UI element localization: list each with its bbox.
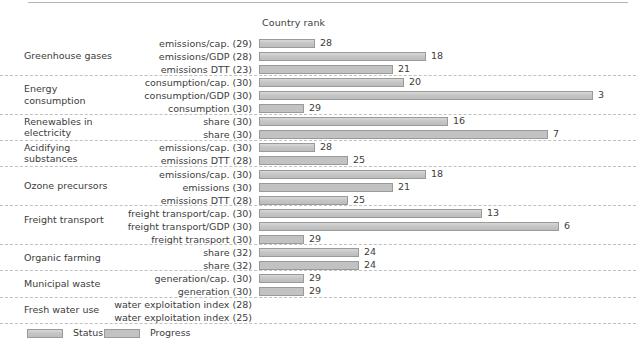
progress-chevrons [260, 66, 392, 73]
legend-swatch-progress [104, 329, 140, 338]
progress-chevrons [260, 262, 358, 269]
status-bar [259, 222, 559, 231]
status-bar [259, 170, 426, 179]
bar-value-label: 13 [487, 207, 499, 220]
bar-area [259, 130, 548, 139]
bar-area [259, 170, 426, 179]
legend-label-status: Status [73, 326, 103, 340]
progress-bar [259, 287, 304, 296]
bar-area [259, 222, 559, 231]
bar-value-label: 3 [598, 89, 604, 102]
chart-row: emissions/cap. (29)28 [0, 37, 636, 50]
status-bar [259, 248, 359, 257]
bar-area [259, 274, 304, 283]
chart-row: freight transport/GDP (30)6 [0, 220, 636, 233]
status-bar [259, 39, 315, 48]
legend-label-progress: Progress [150, 326, 191, 340]
row-label: emissions/cap. (30) [60, 141, 252, 154]
row-label: freight transport/GDP (30) [60, 220, 252, 233]
chart-row: consumption/GDP (30)3 [0, 89, 636, 102]
row-label: emissions/cap. (30) [60, 168, 252, 181]
progress-bar [259, 65, 393, 74]
bar-value-label: 24 [364, 246, 376, 259]
group-separator [0, 323, 636, 324]
bar-area [259, 91, 593, 100]
chart-row: emissions/cap. (30)28 [0, 141, 636, 154]
row-label: consumption/cap. (30) [60, 76, 252, 89]
bar-area [259, 261, 359, 270]
row-label: emissions/cap. (29) [60, 37, 252, 50]
row-label: consumption/GDP (30) [60, 89, 252, 102]
row-label: share (32) [60, 246, 252, 259]
status-bar [259, 91, 593, 100]
bar-area [259, 65, 393, 74]
progress-bar [259, 104, 304, 113]
chart-row: share (32)24 [0, 246, 636, 259]
bar-area [259, 104, 304, 113]
bar-area [259, 235, 304, 244]
bar-value-label: 16 [453, 115, 465, 128]
status-bar [259, 274, 304, 283]
bar-area [259, 78, 404, 87]
chart-row: emissions/GDP (28)18 [0, 50, 636, 63]
progress-bar [259, 156, 348, 165]
progress-chevrons [260, 105, 303, 112]
row-label: freight transport/cap. (30) [60, 207, 252, 220]
column-header-country-rank: Country rank [262, 17, 325, 28]
bar-value-label: 28 [320, 141, 332, 154]
bar-value-label: 18 [431, 50, 443, 63]
bar-value-label: 28 [320, 37, 332, 50]
country-rank-chart: Country rank Greenhouse gasesemissions/c… [0, 0, 636, 346]
progress-chevrons [260, 288, 303, 295]
progress-chevrons [260, 236, 303, 243]
bar-value-label: 29 [309, 272, 321, 285]
legend-swatch-status [27, 329, 63, 338]
chart-row: consumption/cap. (30)20 [0, 76, 636, 89]
row-label: emissions/GDP (28) [60, 50, 252, 63]
row-label: water exploitation index (28) [60, 298, 252, 311]
progress-chevrons [260, 184, 392, 191]
chart-row: freight transport/cap. (30)13 [0, 207, 636, 220]
bar-area [259, 39, 315, 48]
status-bar [259, 117, 448, 126]
bar-area [259, 143, 315, 152]
bar-value-label: 20 [409, 76, 421, 89]
status-bar [259, 52, 426, 61]
row-label: emissions (30) [60, 181, 252, 194]
bar-value-label: 18 [431, 168, 443, 181]
bar-area [259, 117, 448, 126]
bar-value-label: 21 [398, 181, 410, 194]
progress-bar [259, 235, 304, 244]
bar-value-label: 6 [564, 220, 570, 233]
status-bar [259, 209, 482, 218]
row-label: share (30) [60, 115, 252, 128]
chart-row: emissions (30)21 [0, 181, 636, 194]
progress-bar [259, 183, 393, 192]
chart-row: water exploitation index (28) [0, 298, 636, 311]
row-label: generation/cap. (30) [60, 272, 252, 285]
progress-chevrons [260, 157, 347, 164]
bar-area [259, 287, 304, 296]
chart-legend: Status Progress [0, 326, 636, 342]
progress-chevrons [260, 131, 547, 138]
progress-bar [259, 130, 548, 139]
chart-row: generation/cap. (30)29 [0, 272, 636, 285]
chart-row: share (30)16 [0, 115, 636, 128]
top-divider [28, 2, 628, 3]
bar-area [259, 248, 359, 257]
status-bar [259, 196, 348, 205]
bar-area [259, 52, 426, 61]
status-bar [259, 143, 315, 152]
bar-area [259, 196, 348, 205]
bar-area [259, 183, 393, 192]
bar-area [259, 156, 348, 165]
chevron-pattern-icon [105, 338, 139, 345]
chart-row: emissions/cap. (30)18 [0, 168, 636, 181]
status-bar [259, 78, 404, 87]
bar-area [259, 209, 482, 218]
progress-bar [259, 261, 359, 270]
